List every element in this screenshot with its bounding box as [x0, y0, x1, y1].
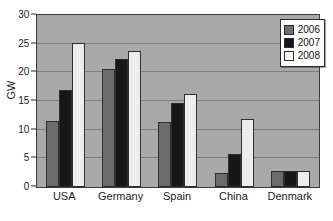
x-tick-label-spain: Spain: [163, 190, 191, 202]
legend-swatch-icon: [284, 51, 294, 61]
bar-spain-2007: [171, 103, 184, 187]
bar-chart: GW 051015202530 USAGermanySpainChinaDenm…: [0, 0, 333, 221]
bar-spain-2006: [158, 122, 171, 187]
bar-usa-2008: [72, 43, 85, 187]
legend-item-2007[interactable]: 2007: [284, 37, 320, 49]
y-tick-label: 20: [18, 66, 29, 77]
bar-denmark-2007: [284, 171, 297, 187]
legend: 200620072008: [280, 19, 325, 67]
bar-group: [37, 15, 93, 187]
legend-swatch-icon: [284, 38, 294, 48]
bar-group: [206, 15, 262, 187]
x-axis: USAGermanySpainChinaDenmark: [36, 190, 320, 210]
y-axis: 051015202530: [0, 14, 36, 188]
bar-germany-2007: [115, 59, 128, 187]
legend-label: 2007: [298, 38, 320, 48]
y-tick-label: 25: [18, 37, 29, 48]
y-tick-label: 0: [24, 181, 29, 192]
y-tick-label: 30: [18, 9, 29, 20]
bar-denmark-2006: [271, 171, 284, 187]
x-tick-label-usa: USA: [53, 190, 76, 202]
legend-label: 2006: [298, 25, 320, 35]
plot-area: [36, 14, 320, 188]
y-tick-label: 15: [18, 95, 29, 106]
bar-group: [93, 15, 149, 187]
y-tick-label: 5: [24, 152, 29, 163]
bar-usa-2007: [59, 90, 72, 187]
bar-group: [150, 15, 206, 187]
legend-swatch-icon: [284, 25, 294, 35]
bar-denmark-2008: [297, 171, 310, 187]
bar-germany-2008: [128, 51, 141, 187]
x-tick-label-denmark: Denmark: [267, 190, 312, 202]
x-tick-label-china: China: [219, 190, 248, 202]
bar-spain-2008: [184, 94, 197, 187]
legend-label: 2008: [298, 51, 320, 61]
legend-item-2006[interactable]: 2006: [284, 24, 320, 36]
bar-china-2008: [241, 119, 254, 187]
y-tick-label: 10: [18, 123, 29, 134]
bar-germany-2006: [102, 69, 115, 187]
bar-china-2007: [228, 154, 241, 187]
x-tick-label-germany: Germany: [98, 190, 143, 202]
legend-item-2008[interactable]: 2008: [284, 50, 320, 62]
bar-china-2006: [215, 173, 228, 187]
bar-usa-2006: [46, 121, 59, 188]
